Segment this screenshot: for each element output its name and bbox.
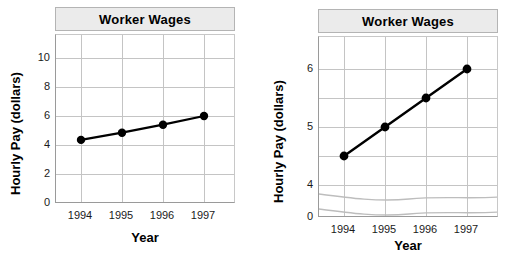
xtick-label-left-1996: 1996 (150, 209, 174, 221)
yaxis-title-left: Hourly Pay (dollars) (8, 72, 23, 195)
series-line-left (56, 35, 235, 203)
ytick-label-left-3: 4 (30, 138, 50, 150)
ytick-label-right-3: 0 (293, 210, 313, 222)
ytick-label-left-0: 10 (30, 51, 50, 63)
xtick-label-right-1995: 1995 (372, 223, 396, 235)
series-line-right (319, 37, 498, 217)
chart-title-bar-right: Worker Wages (318, 9, 498, 33)
ytick-label-left-1: 8 (30, 80, 50, 92)
xtick-label-right-1997: 1997 (454, 223, 478, 235)
ytick-label-right-2: 4 (293, 178, 313, 190)
xtick-label-right-1996: 1996 (413, 223, 437, 235)
chart-title-right: Worker Wages (362, 14, 454, 29)
xaxis-title-left: Year (131, 230, 158, 245)
xtick-label-left-1997: 1997 (191, 209, 215, 221)
xtick-label-left-1995: 1995 (109, 209, 133, 221)
chart-title-bar-left: Worker Wages (55, 7, 235, 31)
chart-panel-right: Worker Wages (259, 0, 518, 257)
xtick-label-right-1994: 1994 (331, 223, 355, 235)
charts-container: Worker Wages 10 8 6 (0, 0, 518, 257)
ytick-label-right-1: 5 (293, 120, 313, 132)
ytick-label-right-0: 6 (293, 62, 313, 74)
ytick-label-left-4: 2 (30, 167, 50, 179)
chart-panel-left: Worker Wages 10 8 6 (0, 0, 259, 257)
ytick-label-left-5: 0 (30, 196, 50, 208)
plot-area-left (55, 34, 235, 203)
ytick-label-left-2: 6 (30, 109, 50, 121)
plot-area-right (318, 36, 498, 217)
yaxis-title-right: Hourly Pay (dollars) (271, 80, 286, 203)
chart-title-left: Worker Wages (99, 12, 191, 27)
xaxis-title-right: Year (394, 238, 421, 253)
xtick-label-left-1994: 1994 (68, 209, 92, 221)
